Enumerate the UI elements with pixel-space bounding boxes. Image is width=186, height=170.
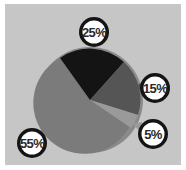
badge-55-label: 55% — [20, 136, 45, 151]
badge-55: 55% — [17, 128, 48, 158]
badge-5: 5% — [133, 119, 168, 149]
badge-15-label: 15% — [143, 81, 168, 96]
badge-5-label: 5% — [144, 127, 163, 142]
badge-25-label: 25% — [82, 25, 107, 40]
pie-chart: 25% 15% 5% 55% — [0, 0, 186, 170]
